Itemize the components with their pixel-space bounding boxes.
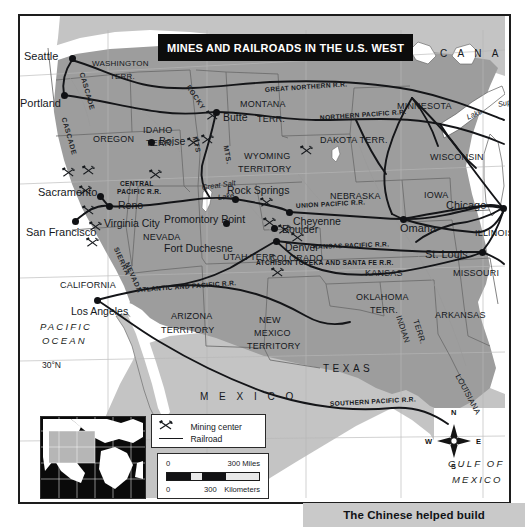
inset-locator-map: [40, 416, 146, 499]
mining-center-icon: [263, 214, 276, 225]
coordinate-label-110-w: 110°W: [207, 503, 232, 504]
mining-center-icon: [278, 221, 291, 232]
city-dot-boulder: [271, 225, 278, 232]
mining-center-icon: [82, 202, 95, 213]
mining-center-icon: [291, 229, 304, 240]
crossed-pick-and-hammer-icon: [159, 420, 185, 433]
mining-center-icon: [86, 234, 99, 245]
city-dot-reno: [106, 203, 113, 210]
map-frame: MINES AND RAILROADS IN THE U.S. WEST C A…: [18, 14, 511, 504]
compass-south-label: S: [451, 462, 456, 471]
mining-center-icon: [62, 164, 75, 175]
city-dot-chicago: [500, 205, 507, 212]
mining-center-icon: [149, 166, 162, 177]
rail-line-icon: [159, 434, 185, 444]
city-dot-st-louis: [479, 249, 486, 256]
legend-mining-center-row: Mining center: [159, 420, 242, 433]
lake-label-lake-2: Lake: [510, 171, 511, 189]
scale-miles-value: 300 Miles: [228, 459, 261, 468]
mining-center-icon: [260, 194, 273, 205]
compass-rose: N E S W: [424, 408, 484, 470]
city-dot-butte: [213, 109, 220, 116]
city-dot-sacramento: [97, 193, 104, 200]
mining-center-icon: [79, 182, 92, 193]
map-page: MINES AND RAILROADS IN THE U.S. WEST C A…: [0, 0, 525, 527]
city-dot-rock-springs: [232, 196, 239, 203]
map-title-banner: MINES AND RAILROADS IN THE U.S. WEST: [158, 34, 413, 61]
city-dot-omaha: [400, 216, 407, 223]
scale-miles-zero: 0: [166, 459, 170, 468]
map-scale-bar: 0 300 Miles 0 300 Kilometers: [157, 453, 269, 499]
mining-center-icon: [187, 134, 200, 145]
coordinate-label-115-w: 115°W: [108, 503, 133, 504]
city-dot-seattle: [69, 55, 76, 62]
mining-center-icon: [201, 131, 214, 142]
city-dot-promontory-point: [223, 220, 230, 227]
figure-caption-text: The Chinese helped build: [343, 509, 485, 521]
compass-west-label: W: [425, 437, 432, 446]
legend-railroad-row: Railroad: [159, 433, 222, 444]
mining-center-icon: [89, 218, 102, 229]
city-dot-san-francisco: [72, 218, 79, 225]
compass-east-label: E: [476, 437, 481, 446]
city-dot-denver: [273, 238, 280, 245]
city-dot-portland: [61, 92, 68, 99]
mining-center-icon: [82, 162, 95, 173]
city-dot-boise: [148, 139, 155, 146]
city-dot-los-angeles: [94, 297, 101, 304]
map-title: MINES AND RAILROADS IN THE U.S. WEST: [167, 42, 404, 54]
scale-bar-graphic: [166, 472, 260, 481]
map-legend: Mining center Railroad: [151, 414, 266, 448]
compass-north-label: N: [451, 408, 456, 417]
legend-railroad-label: Railroad: [187, 434, 222, 444]
mining-center-icon: [271, 264, 284, 275]
scale-km-zero: 0: [166, 485, 170, 494]
city-dot-cheyenne: [286, 209, 293, 216]
legend-mining-center-label: Mining center: [187, 422, 242, 432]
figure-caption: The Chinese helped build: [303, 503, 525, 527]
mining-center-icon: [300, 142, 313, 153]
scale-km-value: 300: [204, 485, 217, 494]
scale-km-unit: Kilometers: [224, 485, 260, 494]
